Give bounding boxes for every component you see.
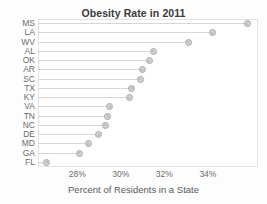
chart-figure: Obesity Rate in 2011 MSLAWVALOKARSCTXKYV…	[0, 0, 267, 204]
lollipop-row	[38, 28, 258, 37]
lollipop-stem	[38, 23, 247, 24]
lollipop-stem	[38, 51, 153, 52]
chart-title: Obesity Rate in 2011	[0, 7, 267, 19]
lollipop-stem	[38, 69, 143, 70]
y-axis-tick-labels: MSLAWVALOKARSCTXKYVATNNCDEMDGAFL	[0, 19, 35, 167]
lollipop-row	[38, 102, 258, 111]
x-tick-32: 32%	[144, 169, 184, 180]
lollipop-row	[38, 19, 258, 28]
x-tick-34: 34%	[188, 169, 228, 180]
x-axis-tick-labels: 28%30%32%34%	[38, 169, 258, 181]
lollipop-stem	[38, 79, 140, 80]
data-point-marker	[137, 76, 144, 83]
lollipop-stem	[38, 116, 108, 117]
lollipop-row	[38, 121, 258, 130]
lollipop-stem	[38, 32, 212, 33]
lollipop-stem	[38, 97, 129, 98]
data-point-marker	[102, 122, 109, 129]
lollipop-row	[38, 112, 258, 121]
lollipop-stem	[38, 125, 106, 126]
data-point-marker	[76, 150, 83, 157]
lollipop-row	[38, 65, 258, 74]
data-point-marker	[126, 94, 133, 101]
lollipop-stem	[38, 143, 88, 144]
lollipop-stem	[38, 106, 110, 107]
lollipop-row	[38, 149, 258, 158]
lollipop-row	[38, 38, 258, 47]
data-point-marker	[150, 48, 157, 55]
data-point-marker	[209, 29, 216, 36]
lollipop-row	[38, 56, 258, 65]
x-axis-label: Percent of Residents in a State	[0, 184, 267, 195]
lollipop-row	[38, 47, 258, 56]
data-point-marker	[244, 20, 251, 27]
data-point-marker	[95, 131, 102, 138]
lollipop-stem	[38, 153, 79, 154]
lollipop-row	[38, 84, 258, 93]
data-point-marker	[104, 113, 111, 120]
data-point-marker	[139, 66, 146, 73]
x-tick-28: 28%	[57, 169, 97, 180]
data-point-marker	[106, 103, 113, 110]
lollipop-stem	[38, 60, 149, 61]
lollipop-stem	[38, 134, 99, 135]
plot-area	[38, 19, 258, 167]
data-point-marker	[43, 159, 50, 166]
lollipop-stem	[38, 88, 132, 89]
data-point-marker	[85, 140, 92, 147]
lollipop-row	[38, 130, 258, 139]
y-tick-fl: FL	[1, 158, 35, 167]
x-tick-30: 30%	[101, 169, 141, 180]
lollipop-row	[38, 75, 258, 84]
data-point-marker	[146, 57, 153, 64]
lollipop-row	[38, 93, 258, 102]
data-point-marker	[128, 85, 135, 92]
data-point-marker	[185, 39, 192, 46]
lollipop-stem	[38, 42, 188, 43]
lollipop-row	[38, 158, 258, 167]
lollipop-row	[38, 139, 258, 148]
